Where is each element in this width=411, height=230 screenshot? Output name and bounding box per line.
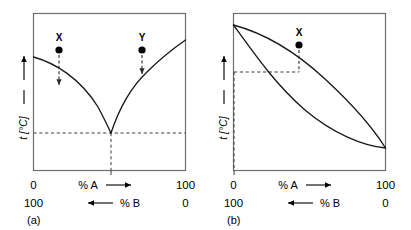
marker-x-label-b: X [296,27,303,38]
liquidus-right-branch-a [111,40,186,133]
panel-b-isomorphous-diagram: t [°C] X 0 100 % A 100 0 % B [205,0,411,230]
x-tick-right-b: 100 [376,179,395,191]
plot-frame-b [234,14,386,171]
x-tick-left-a: 0 [30,179,36,191]
marker-x-dot-b [295,41,302,48]
panel-a-eutectic-diagram: t [°C] X Y 0 100 % A [0,0,206,230]
y-axis-label-b: t [°C] [217,115,229,140]
x-tick-right-a: 100 [176,179,195,191]
liquidus-left-branch-a [34,57,112,133]
x-tick-right-b-scale-b: 0 [382,197,388,209]
x-tick-left-b-scale-a: 100 [24,197,43,209]
marker-x-label-a: X [56,32,63,43]
x-tick-left-b: 0 [230,179,236,191]
phase-diagram-figure: t [°C] X Y 0 100 % A [0,0,411,230]
panel-caption-a: (a) [27,214,40,226]
x-axis-label-b-top: % A [278,179,298,191]
y-axis-label-a: t [°C] [17,115,29,140]
solidus-curve-b [234,25,386,148]
x-tick-right-b-scale-a: 0 [182,197,188,209]
marker-y-dot-a [138,46,145,53]
marker-x-dot-a [55,46,62,53]
x-axis-label-b-bottom: % B [320,197,340,209]
x-tick-left-b-scale-b: 100 [224,197,243,209]
panel-caption-b: (b) [227,214,240,226]
x-axis-label-a-bottom: % B [120,197,140,209]
liquidus-curve-b [234,25,386,148]
x-axis-label-a-top: % A [78,179,98,191]
marker-y-label-a: Y [139,32,146,43]
